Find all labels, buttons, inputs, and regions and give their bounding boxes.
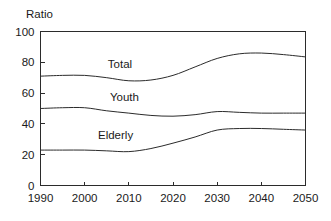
series-line-youth [41,107,306,116]
y-axis-title-group: Ratio [26,8,53,20]
y-tick-label: 80 [22,56,35,68]
series-label-youth: Youth [110,91,139,103]
y-axis-tick-labels: 020406080100 [15,26,34,192]
y-axis-title: Ratio [26,8,53,20]
axis-tick-marks [41,62,262,185]
x-tick-label: 1990 [28,192,54,204]
series-line-elderly [41,128,306,151]
x-tick-label: 2000 [72,192,98,204]
x-axis-tick-labels: 1990200020102020203020402050 [28,192,319,204]
chart-container: Ratio 020406080100 199020002010202020302… [0,0,331,221]
line-chart: Ratio 020406080100 199020002010202020302… [0,0,331,221]
x-tick-label: 2030 [204,192,230,204]
x-tick-label: 2050 [293,192,319,204]
y-tick-label: 100 [15,26,34,38]
series-line-total [41,53,306,81]
y-tick-label: 0 [28,180,34,192]
series-label-elderly: Elderly [98,129,133,141]
series-inline-labels: TotalYouthElderly [98,58,139,141]
plot-frame-path [41,32,306,186]
y-tick-label: 20 [22,149,35,161]
series-label-total: Total [108,58,132,70]
y-tick-label: 60 [22,87,35,99]
series-lines [41,53,306,152]
plot-frame [41,32,306,186]
x-tick-label: 2010 [116,192,142,204]
y-tick-label: 40 [22,118,35,130]
x-tick-label: 2020 [160,192,186,204]
x-tick-label: 2040 [249,192,275,204]
